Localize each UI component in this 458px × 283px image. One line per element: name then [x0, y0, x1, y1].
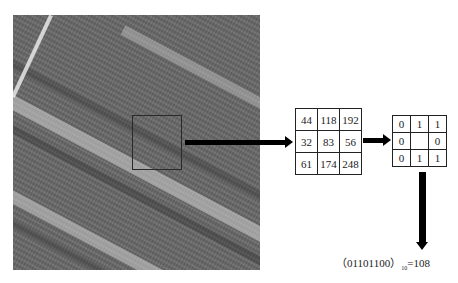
grid-cell: 61	[296, 153, 318, 175]
grid-row: 61 174 248	[296, 153, 362, 175]
grid-cell: 1	[411, 150, 429, 167]
grid-cell: 174	[318, 153, 340, 175]
formula-binary: 01101100	[347, 257, 390, 269]
grid-cell: 44	[296, 109, 318, 131]
formula-open-paren: （	[336, 257, 347, 269]
grid-cell: 0	[429, 133, 447, 150]
grid-row: 0 1 1	[393, 150, 447, 167]
grid-cell: 248	[340, 153, 362, 175]
arrow-to-binary-grid	[363, 138, 384, 143]
grid-cell: 0	[393, 150, 411, 167]
light-row-stripe	[121, 26, 260, 129]
grid-cell: 56	[340, 131, 362, 153]
lbp-formula: （01101100）10=108	[336, 254, 430, 271]
grid-cell: 0	[393, 116, 411, 133]
grid-cell-center: 83	[318, 131, 340, 153]
arrow-to-pixel-grid	[185, 140, 286, 145]
neighborhood-selection-box	[132, 115, 182, 170]
formula-result: =108	[407, 257, 430, 269]
grid-cell: 1	[429, 116, 447, 133]
formula-close-paren: ）	[390, 257, 401, 269]
grid-row: 0 1 1	[393, 116, 447, 133]
grid-cell-center	[411, 133, 429, 150]
arrow-to-formula	[419, 172, 426, 243]
binary-code-grid: 0 1 1 0 0 0 1 1	[392, 115, 447, 167]
grid-row: 0 0	[393, 133, 447, 150]
grid-cell: 1	[429, 150, 447, 167]
grid-cell: 118	[318, 109, 340, 131]
grid-cell: 32	[296, 131, 318, 153]
grid-row: 32 83 56	[296, 131, 362, 153]
grid-cell: 1	[411, 116, 429, 133]
grid-cell: 0	[393, 133, 411, 150]
grid-row: 44 118 192	[296, 109, 362, 131]
grid-cell: 192	[340, 109, 362, 131]
pixel-value-grid: 44 118 192 32 83 56 61 174 248	[295, 108, 362, 175]
